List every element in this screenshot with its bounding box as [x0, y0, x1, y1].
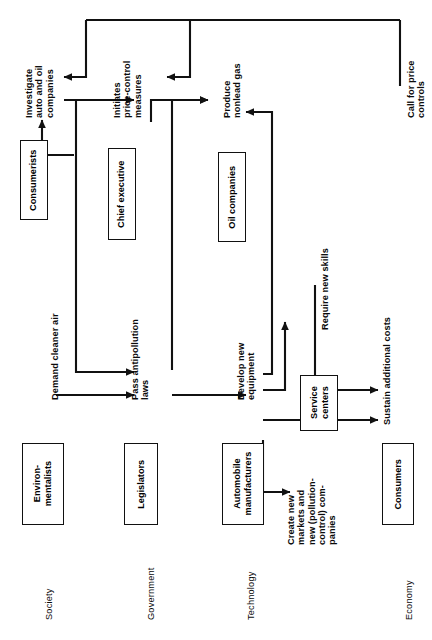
actor-label-auto-manufacturers: Automobile manufacturers: [232, 452, 253, 516]
actor-box-chief-executive[interactable]: Chief executive: [108, 148, 136, 240]
column-heading-government: Government: [146, 567, 156, 620]
actor-box-oil-companies[interactable]: Oil companies: [218, 152, 246, 242]
flow-laws-to-produce: [172, 100, 208, 370]
actor-label-service-centers: Service centers: [308, 387, 329, 420]
column-heading-technology: Technology: [246, 572, 256, 620]
actor-label-consumers: Consumers: [393, 459, 404, 510]
actor-box-service-centers[interactable]: Service centers: [300, 375, 338, 431]
action-sustain-additional-costs: Sustain additional costs: [382, 317, 392, 425]
actor-label-chief-executive: Chief executive: [117, 160, 128, 227]
flow-initiates-to-produce-2: [151, 100, 208, 122]
action-initiates-price-control: Initiates price-control measures: [112, 61, 143, 118]
action-develop-new-equipment: Develop new equipment: [236, 343, 257, 400]
actor-box-consumers[interactable]: Consumers: [382, 443, 414, 525]
actor-label-consumerists: Consumerists: [29, 149, 40, 210]
action-call-for-price-controls: Call for price controls: [406, 60, 427, 118]
actor-box-auto-manufacturers[interactable]: Automobile manufacturers: [222, 443, 264, 525]
actor-box-legislators[interactable]: Legislators: [124, 443, 158, 525]
action-investigate-companies: Investigate auto and oil companies: [24, 65, 55, 118]
action-create-new-markets: Create new markets and new (pollution- c…: [286, 478, 337, 545]
actor-label-oil-companies: Oil companies: [227, 166, 238, 229]
flow-develop-to-skills: [263, 322, 285, 390]
actor-label-environmentalists: Environ- mentalists: [32, 461, 53, 506]
flow-develop-to-produce: [246, 112, 272, 374]
actor-box-consumerists[interactable]: Consumerists: [20, 140, 48, 220]
flow-spine-to-laws: [76, 360, 134, 372]
column-heading-economy: Economy: [404, 580, 414, 620]
actor-label-legislators: Legislators: [136, 459, 147, 508]
action-pass-antipollution-laws: Pass antipollution laws: [130, 319, 151, 400]
connector-layer: [0, 0, 432, 640]
action-require-new-skills: Require new skills: [320, 248, 330, 330]
action-produce-nonlead-gas: Produce nonlead gas: [222, 63, 243, 118]
actor-box-environmentalists[interactable]: Environ- mentalists: [22, 443, 64, 525]
column-heading-society: Society: [44, 588, 54, 620]
flow-call-to-investigate: [64, 20, 86, 77]
flow-call-to-initiates: [167, 20, 190, 77]
diagram-canvas: Investigate auto and oil companies Initi…: [0, 0, 432, 640]
action-demand-cleaner-air: Demand cleaner air: [50, 313, 60, 400]
